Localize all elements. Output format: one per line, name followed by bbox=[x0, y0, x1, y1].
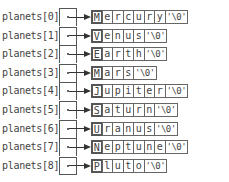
array-row: planets[5]Saturn'\0' bbox=[0, 101, 229, 119]
string-cells: Mars'\0' bbox=[91, 66, 156, 80]
array-row: planets[1]Venus'\0' bbox=[0, 27, 229, 45]
pointer-cell-divider bbox=[59, 82, 77, 83]
array-row: planets[2]Earth'\0' bbox=[0, 45, 229, 63]
pointer-cell-divider bbox=[59, 138, 77, 139]
array-row: planets[8]Pluto'\0' bbox=[0, 157, 229, 175]
null-terminator-cell: '\0' bbox=[154, 103, 178, 117]
row-label: planets[4] bbox=[2, 85, 59, 97]
arrow-head-icon bbox=[84, 107, 91, 113]
arrow-head-icon bbox=[84, 88, 91, 94]
null-terminator-cell: '\0' bbox=[165, 140, 189, 154]
null-terminator-cell: '\0' bbox=[154, 122, 178, 136]
row-label: planets[0] bbox=[2, 11, 59, 23]
row-label: planets[6] bbox=[2, 123, 59, 135]
array-row: planets[4]Jupiter'\0' bbox=[0, 82, 229, 100]
arrow-head-icon bbox=[84, 70, 91, 76]
string-cells: Jupiter'\0' bbox=[91, 84, 187, 98]
row-label: planets[8] bbox=[2, 160, 59, 172]
null-terminator-cell: '\0' bbox=[144, 47, 168, 61]
string-cells: Pluto'\0' bbox=[91, 159, 166, 173]
array-row: planets[3]Mars'\0' bbox=[0, 64, 229, 82]
row-label: planets[7] bbox=[2, 141, 59, 153]
arrow-head-icon bbox=[84, 144, 91, 150]
row-label: planets[3] bbox=[2, 67, 59, 79]
arrow-head-icon bbox=[84, 163, 91, 169]
row-label: planets[2] bbox=[2, 48, 59, 60]
arrow-head-icon bbox=[84, 14, 91, 20]
null-terminator-cell: '\0' bbox=[165, 10, 189, 24]
array-row: planets[6]Uranus'\0' bbox=[0, 120, 229, 138]
null-terminator-cell: '\0' bbox=[144, 159, 168, 173]
array-row: planets[7]Neptune'\0' bbox=[0, 138, 229, 156]
string-cells: Uranus'\0' bbox=[91, 122, 177, 136]
arrow-head-icon bbox=[84, 126, 91, 132]
string-cells: Mercury'\0' bbox=[91, 10, 187, 24]
pointer-cell-divider bbox=[59, 101, 77, 102]
string-cells: Earth'\0' bbox=[91, 47, 166, 61]
pointer-cell-divider bbox=[59, 120, 77, 121]
pointer-cell-divider bbox=[59, 45, 77, 46]
null-terminator-cell: '\0' bbox=[165, 84, 189, 98]
row-label: planets[5] bbox=[2, 104, 59, 116]
pointer-cell-divider bbox=[59, 27, 77, 28]
pointer-cell-divider bbox=[59, 64, 77, 65]
null-terminator-cell: '\0' bbox=[133, 66, 157, 80]
pointer-cell-divider bbox=[59, 157, 77, 158]
string-cells: Venus'\0' bbox=[91, 29, 166, 43]
arrow-head-icon bbox=[84, 33, 91, 39]
null-terminator-cell: '\0' bbox=[144, 29, 168, 43]
array-row: planets[0]Mercury'\0' bbox=[0, 8, 229, 26]
row-label: planets[1] bbox=[2, 30, 59, 42]
string-cells: Neptune'\0' bbox=[91, 140, 187, 154]
string-cells: Saturn'\0' bbox=[91, 103, 177, 117]
arrow-head-icon bbox=[84, 51, 91, 57]
